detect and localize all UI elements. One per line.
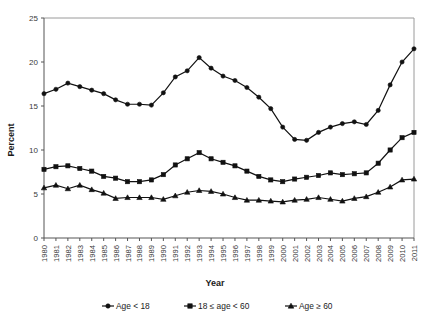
marker-circle <box>316 130 320 134</box>
x-tick-label: 1995 <box>219 245 228 262</box>
marker-circle <box>54 87 58 91</box>
marker-square <box>412 130 416 134</box>
marker-square <box>161 173 165 177</box>
marker-square <box>328 171 332 175</box>
marker-circle <box>340 122 344 126</box>
marker-circle <box>233 78 237 82</box>
marker-circle <box>352 120 356 124</box>
marker-square <box>304 175 308 179</box>
marker-circle <box>245 85 249 89</box>
marker-circle <box>161 91 165 95</box>
marker-square <box>137 180 141 184</box>
marker-circle <box>257 95 261 99</box>
marker-square <box>269 178 273 182</box>
marker-square <box>221 160 225 164</box>
x-tick-label: 2009 <box>386 245 395 262</box>
x-tick-label: 2001 <box>291 245 300 262</box>
x-tick-label: 1998 <box>255 245 264 262</box>
x-tick-label: 1997 <box>243 245 252 262</box>
marker-square <box>209 157 213 161</box>
marker-circle <box>173 75 177 79</box>
x-tick-label: 2005 <box>338 245 347 262</box>
x-tick-label: 2008 <box>374 245 383 262</box>
x-tick-label: 1984 <box>88 245 97 262</box>
x-tick-label: 1982 <box>64 245 73 262</box>
x-tick-label: 1990 <box>159 245 168 262</box>
marker-square <box>257 174 261 178</box>
marker-square <box>316 173 320 177</box>
y-tick-label: 20 <box>29 58 38 67</box>
x-tick-label: 1980 <box>40 245 49 262</box>
x-tick-label: 1999 <box>267 245 276 262</box>
marker-square <box>364 171 368 175</box>
marker-circle <box>137 102 141 106</box>
marker-circle <box>90 88 94 92</box>
marker-circle <box>364 122 368 126</box>
marker-circle <box>66 81 70 85</box>
marker-circle <box>388 83 392 87</box>
y-tick-label: 25 <box>29 14 38 23</box>
marker-circle <box>125 102 129 106</box>
marker-square <box>188 304 192 308</box>
x-tick-label: 1996 <box>231 245 240 262</box>
marker-square <box>197 151 201 155</box>
marker-circle <box>106 304 110 308</box>
x-tick-label: 1992 <box>183 245 192 262</box>
marker-circle <box>400 60 404 64</box>
x-tick-label: 2010 <box>398 245 407 262</box>
marker-square <box>352 172 356 176</box>
marker-square <box>376 161 380 165</box>
y-tick-label: 10 <box>29 146 38 155</box>
x-tick-label: 1988 <box>135 245 144 262</box>
marker-circle <box>328 125 332 129</box>
x-tick-label: 2003 <box>315 245 324 262</box>
marker-square <box>42 167 46 171</box>
x-tick-label: 2007 <box>362 245 371 262</box>
x-tick-label: 1985 <box>100 245 109 262</box>
marker-circle <box>304 138 308 142</box>
chart-legend: Age < 1818 ≤ age < 60Age ≥ 60 <box>102 301 333 311</box>
marker-square <box>388 148 392 152</box>
marker-circle <box>412 47 416 51</box>
x-tick-label: 1986 <box>112 245 121 262</box>
marker-circle <box>42 92 46 96</box>
marker-square <box>102 174 106 178</box>
marker-square <box>173 163 177 167</box>
x-tick-label: 1991 <box>171 245 180 262</box>
x-tick-label: 1993 <box>195 245 204 262</box>
x-tick-label: 2000 <box>279 245 288 262</box>
marker-square <box>340 173 344 177</box>
marker-square <box>281 180 285 184</box>
x-tick-label: 1994 <box>207 245 216 262</box>
legend-label: Age < 18 <box>116 301 150 311</box>
x-tick-label: 2006 <box>350 245 359 262</box>
chart-container: 0510152025 19801981198219831984198519861… <box>0 0 428 321</box>
marker-circle <box>197 56 201 60</box>
x-tick-label: 1987 <box>124 245 133 262</box>
marker-square <box>114 176 118 180</box>
marker-circle <box>78 85 82 89</box>
x-tick-label: 1981 <box>52 245 61 262</box>
marker-circle <box>114 98 118 102</box>
marker-square <box>78 166 82 170</box>
marker-square <box>125 180 129 184</box>
marker-square <box>66 164 70 168</box>
marker-circle <box>102 92 106 96</box>
marker-circle <box>185 69 189 73</box>
y-axis-title: Percent <box>6 123 16 156</box>
x-tick-label: 2011 <box>410 245 419 261</box>
y-tick-label: 0 <box>34 234 39 243</box>
x-tick-label: 2004 <box>326 245 335 262</box>
marker-circle <box>281 125 285 129</box>
marker-circle <box>376 108 380 112</box>
marker-circle <box>149 103 153 107</box>
marker-square <box>185 157 189 161</box>
y-tick-label: 5 <box>34 190 39 199</box>
marker-square <box>233 164 237 168</box>
legend-label: Age ≥ 60 <box>299 301 333 311</box>
marker-square <box>400 136 404 140</box>
legend-label: 18 ≤ age < 60 <box>198 301 250 311</box>
line-chart: 0510152025 19801981198219831984198519861… <box>0 0 428 321</box>
x-tick-label: 1989 <box>147 245 156 262</box>
x-tick-label: 2002 <box>303 245 312 262</box>
